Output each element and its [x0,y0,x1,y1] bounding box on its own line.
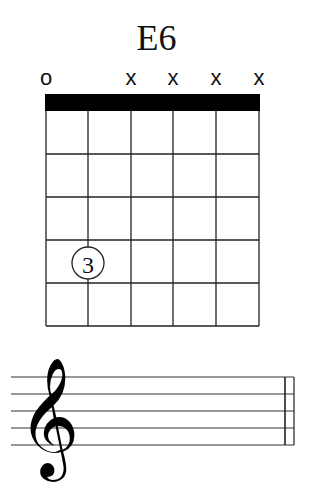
fret-lines [46,154,259,326]
finger-dot: 3 [72,247,104,279]
treble-clef-icon: 𝄞 [18,355,79,482]
nut [45,94,260,111]
finger-number: 3 [82,252,94,278]
string-lines [46,111,259,326]
chord-diagram: 3 𝄞 [0,0,313,501]
